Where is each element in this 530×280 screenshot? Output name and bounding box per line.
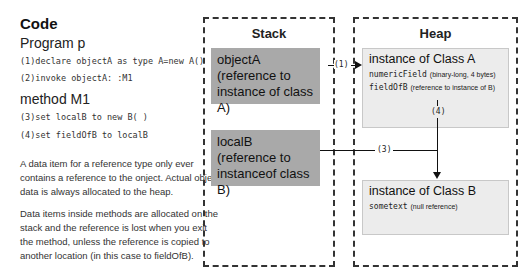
field-desc: (binary-long, 4 bytes) [430, 71, 496, 78]
arrow-3-line-b [353, 150, 375, 151]
arrow-4-label: (4) [431, 107, 445, 116]
heap-instance-class-a: instance of Class A numericField(binary-… [362, 48, 509, 128]
stack-item-name: objectA [217, 52, 314, 68]
field-name: numericField [369, 70, 427, 79]
arrow-3-label: (3) [377, 145, 391, 154]
stack-item-desc: (reference to instance of class A) [217, 68, 314, 116]
field-name: sometext [369, 202, 408, 211]
heap-instance-class-b: instance of Class B sometext(null refere… [362, 180, 509, 235]
note-paragraph-2: Data items inside methods are allocated … [20, 207, 220, 263]
program-title: Program p [20, 35, 85, 51]
code-line-4: (4)set fieldOfB to localB [20, 130, 148, 140]
instance-title: instance of Class A [369, 52, 502, 66]
stack-item-localB: localB (reference to instanceof class B) [211, 130, 320, 186]
arrow-4-head-icon [433, 172, 441, 179]
field-numericField: numericField(binary-long, 4 bytes) [369, 69, 502, 79]
arrow-3-line-a [320, 150, 354, 151]
field-desc: (reference to instance of B) [411, 84, 495, 91]
code-line-1: (1)declare objectA as type A=new A() [20, 56, 204, 66]
field-sometext: sometext(null reference) [369, 201, 502, 211]
code-line-3: (3)set localB to new B( ) [20, 112, 148, 122]
stack-title: Stack [203, 26, 335, 41]
stack-item-desc: (reference to instanceof class B) [217, 150, 314, 198]
code-line-2: (2)invoke objectA: :M1 [20, 73, 133, 83]
arrow-4-line-a [437, 100, 438, 106]
arrow-1-head-icon [355, 61, 362, 69]
field-fieldOfB: fieldOfB(reference to instance of B) [369, 82, 502, 92]
arrow-4-line-b [437, 118, 438, 173]
arrow-3-line-c [393, 150, 438, 151]
method-title: method M1 [20, 91, 90, 107]
arrow-1-label: (1) [334, 60, 348, 69]
stack-item-objectA: objectA (reference to instance of class … [211, 48, 320, 104]
code-heading: Code [20, 15, 58, 32]
stack-item-name: localB [217, 134, 314, 150]
note-paragraph-1: A data item for a reference type only ev… [20, 157, 220, 199]
heap-title: Heap [353, 26, 518, 41]
instance-title: instance of Class B [369, 184, 502, 198]
field-name: fieldOfB [369, 83, 408, 92]
field-desc: (null reference) [411, 203, 458, 210]
